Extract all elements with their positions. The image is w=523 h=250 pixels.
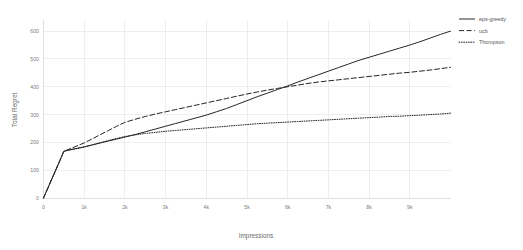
x-tick-label: 6k <box>285 204 291 210</box>
legend-label-ucb: ucb <box>479 28 488 34</box>
line-chart: 0100200300400500600 01k2k3k4k5k6k7k8k9k … <box>0 0 523 250</box>
y-tick-label: 200 <box>30 139 39 145</box>
x-axis-title: Impressions <box>239 232 273 240</box>
y-tick-label: 100 <box>30 167 39 173</box>
x-tick-label: 3k <box>163 204 169 210</box>
x-tick-label: 9k <box>407 204 413 210</box>
y-tick-label: 600 <box>30 28 39 34</box>
chart-background <box>0 0 523 250</box>
legend-label-thompson: Thompson <box>479 39 504 45</box>
y-tick-label: 500 <box>30 56 39 62</box>
chart-container: 0100200300400500600 01k2k3k4k5k6k7k8k9k … <box>0 0 523 250</box>
y-tick-label: 400 <box>30 84 39 90</box>
x-tick-label: 2k <box>122 204 128 210</box>
x-tick-label: 5k <box>244 204 250 210</box>
y-tick-label: 0 <box>36 195 39 201</box>
x-tick-label: 7k <box>326 204 332 210</box>
x-tick-label: 1k <box>81 204 87 210</box>
x-tick-label: 8k <box>366 204 372 210</box>
y-axis-title: Total Regret <box>11 93 19 128</box>
x-tick-label: 4k <box>204 204 210 210</box>
y-tick-label: 300 <box>30 112 39 118</box>
legend-label-eps-greedy: eps-greedy <box>479 16 506 22</box>
x-tick-label: 0 <box>42 204 45 210</box>
